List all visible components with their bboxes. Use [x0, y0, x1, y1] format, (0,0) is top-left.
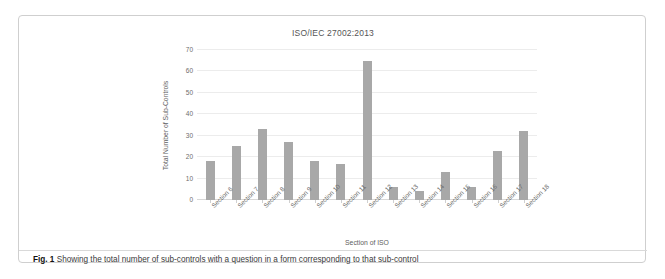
y-tick-label: 30	[186, 131, 193, 138]
bar	[206, 161, 215, 200]
x-tick-label-slot: Section 18	[511, 202, 537, 236]
x-tick-label-slot: Section 6	[197, 202, 223, 236]
chart-plot-area: ISO/IEC 27002:2013 Total Number of Sub-C…	[19, 16, 647, 232]
plot-canvas: 010203040506070	[197, 50, 537, 200]
bar	[310, 161, 319, 200]
x-tick-label-slot: Section 13	[380, 202, 406, 236]
y-axis-title-label: Total Number of Sub-Controls	[162, 80, 169, 170]
x-tick-label-slot: Section 11	[328, 202, 354, 236]
bar-slot	[328, 50, 354, 200]
bar-series	[197, 50, 537, 200]
bar-slot	[485, 50, 511, 200]
x-tick-label-slot: Section 12	[354, 202, 380, 236]
y-tick-label: 60	[186, 67, 193, 74]
caption-divider	[19, 250, 647, 251]
bar-slot	[354, 50, 380, 200]
bar-slot	[197, 50, 223, 200]
figure-caption-text: Showing the total number of sub-controls…	[57, 255, 419, 264]
figure-caption-label: Fig. 1	[33, 255, 54, 264]
bar	[284, 142, 293, 200]
bar	[493, 151, 502, 200]
bar	[232, 146, 241, 200]
bar-slot	[275, 50, 301, 200]
x-tick-label-slot: Section 8	[249, 202, 275, 236]
y-tick-label: 70	[186, 46, 193, 53]
bar-slot	[511, 50, 537, 200]
bar-slot	[459, 50, 485, 200]
figure-card: ISO/IEC 27002:2013 Total Number of Sub-C…	[18, 15, 646, 263]
bar-slot	[223, 50, 249, 200]
bar-slot	[406, 50, 432, 200]
x-tick-labels: Section 6Section 7Section 8Section 9Sect…	[197, 202, 537, 236]
x-tick-label-slot: Section 14	[406, 202, 432, 236]
x-tick-label-slot: Section 15	[432, 202, 458, 236]
chart-title: ISO/IEC 27002:2013	[19, 28, 647, 38]
figure-caption: Fig. 1 Showing the total number of sub-c…	[33, 255, 633, 265]
x-tick-label-slot: Section 16	[459, 202, 485, 236]
bar-slot	[432, 50, 458, 200]
y-tick-label: 40	[186, 110, 193, 117]
x-tick-label-slot: Section 7	[223, 202, 249, 236]
y-tick-label: 50	[186, 88, 193, 95]
y-tick-label: 20	[186, 153, 193, 160]
y-tick-label: 10	[186, 174, 193, 181]
x-tick-label-slot: Section 10	[302, 202, 328, 236]
bar	[363, 61, 372, 200]
x-tick-label-slot: Section 9	[275, 202, 301, 236]
bar-slot	[380, 50, 406, 200]
bar-slot	[302, 50, 328, 200]
bar-slot	[249, 50, 275, 200]
x-axis-title: Section of ISO	[197, 239, 537, 246]
bar	[336, 164, 345, 200]
y-tick-label: 0	[189, 196, 193, 203]
y-axis-title: Total Number of Sub-Controls	[160, 50, 171, 200]
x-tick-label-slot: Section 17	[485, 202, 511, 236]
